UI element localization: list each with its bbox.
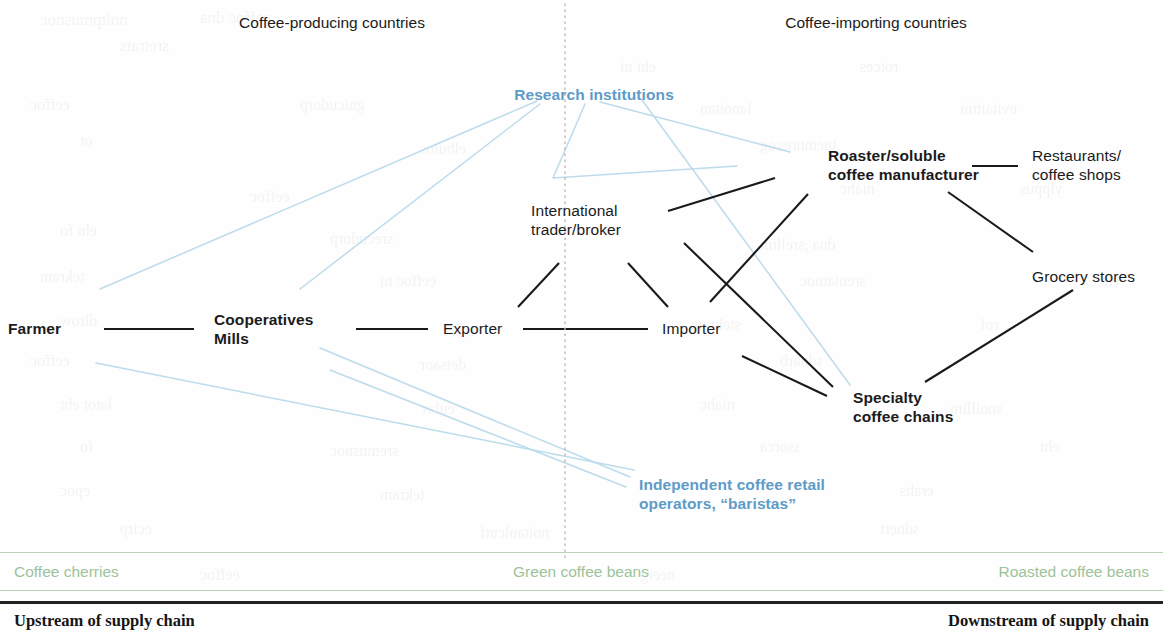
blue-link-research-exporter [553, 104, 737, 178]
blue-link-research-roaster [600, 102, 790, 152]
supply-chain-rule [0, 601, 1163, 604]
blue-link-coops-baristas [320, 348, 630, 477]
coffee-supply-chain-diagram: noitpmusnoceeffoc dnasretratseht nirotce… [0, 0, 1163, 635]
blue-link-research-specialty [642, 100, 850, 385]
link-trader-importer [628, 263, 668, 307]
node-research[interactable]: Research institutions [514, 85, 674, 104]
link-roaster-grocery [948, 192, 1033, 252]
column-header-producing: Coffee-producing countries [239, 14, 425, 32]
link-importer-specialty [742, 356, 827, 396]
node-grocery[interactable]: Grocery stores [1032, 267, 1135, 286]
node-importer[interactable]: Importer [662, 319, 721, 338]
blue-link-farmer-baristas [96, 363, 634, 470]
node-cooperatives[interactable]: Cooperatives Mills [214, 310, 313, 348]
upstream-caption: Upstream of supply chain [14, 611, 195, 631]
downstream-caption: Downstream of supply chain [948, 611, 1149, 631]
blue-link-research-farmer [100, 101, 537, 289]
link-exporter-trader [518, 263, 559, 307]
node-trader[interactable]: International trader/broker [531, 201, 621, 239]
column-header-importing: Coffee-importing countries [785, 14, 967, 32]
node-roaster[interactable]: Roaster/soluble coffee manufacturer [828, 146, 979, 184]
band-rule-bottom [0, 590, 1163, 591]
product-stage-label: Roasted coffee beans [998, 563, 1149, 581]
node-exporter[interactable]: Exporter [443, 319, 502, 338]
link-trader-specialty [684, 243, 833, 387]
product-stage-label: Green coffee beans [513, 563, 649, 581]
link-specialty-grocery [925, 290, 1073, 382]
product-stage-label: Coffee cherries [14, 563, 119, 581]
node-baristas[interactable]: Independent coffee retail operators, “ba… [639, 475, 825, 513]
blue-link-coops2-baristas [330, 370, 626, 487]
band-rule-top [0, 552, 1163, 553]
link-importer-roaster [710, 194, 808, 302]
product-stage-band: Coffee cherriesGreen coffee beansRoasted… [0, 552, 1163, 592]
blue-link-research-cooperatives [300, 104, 540, 289]
node-farmer[interactable]: Farmer [8, 319, 61, 338]
node-restaurants[interactable]: Restaurants/ coffee shops [1032, 146, 1121, 184]
link-trader-roaster [668, 178, 775, 211]
node-specialty[interactable]: Specialty coffee chains [853, 388, 953, 426]
